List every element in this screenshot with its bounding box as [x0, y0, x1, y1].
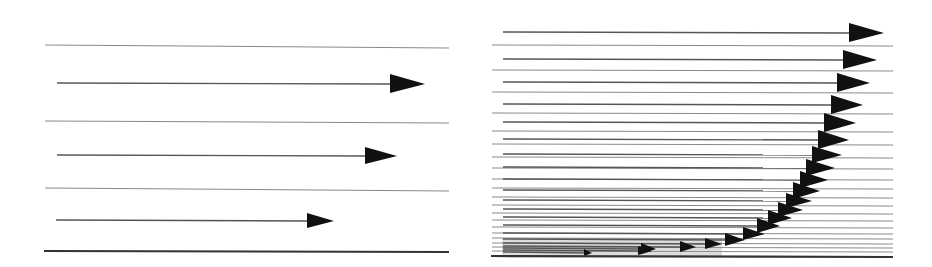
arrow-shaft [503, 248, 642, 249]
arrow-shaft [503, 243, 706, 244]
arrow-shaft [503, 250, 639, 251]
arrow-shaft [503, 225, 758, 226]
arrow-shaft [56, 220, 308, 221]
arrow-shaft [503, 217, 769, 218]
flow-profile-diagram [0, 0, 932, 267]
wall-boundary [44, 251, 449, 252]
wall-boundary [491, 256, 893, 257]
arrow-shaft [503, 209, 779, 210]
arrow-shaft [503, 233, 744, 234]
arrow-shaft [503, 122, 825, 123]
background [0, 0, 932, 267]
arrow-shaft [503, 32, 850, 33]
arrow-shaft [503, 59, 844, 60]
arrow-shaft [503, 239, 726, 240]
arrow-shaft [503, 252, 585, 253]
arrow-shaft [57, 83, 391, 84]
arrow-shaft [503, 104, 832, 105]
arrow-shaft [503, 82, 838, 83]
